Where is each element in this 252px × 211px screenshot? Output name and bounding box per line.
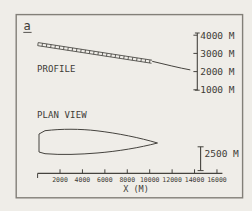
profile-scale-tick-label: 3000 M [200, 48, 235, 59]
x-axis-tick-label: 12000 [162, 176, 182, 184]
profile-extension-line [152, 61, 190, 70]
x-axis-ticks: 200040006000800010000120001400016000 [52, 169, 227, 184]
plan-view-outline [39, 129, 158, 154]
x-axis-tick-label: 16000 [207, 176, 227, 184]
profile-label: PROFILE [37, 64, 76, 74]
x-axis-tick-label: 4000 [75, 176, 91, 184]
x-axis-tick-label: 14000 [185, 176, 205, 184]
x-axis-tick-label: 6000 [97, 176, 113, 184]
x-axis: 200040006000800010000120001400016000 X (… [38, 169, 227, 194]
x-axis-tick-label: 2000 [52, 176, 68, 184]
figure-border [16, 15, 242, 198]
figure-canvas: a PROFILE 4000 M3000 M2000 M1000 M PLAN … [0, 0, 252, 211]
x-axis-tick-label: 8000 [119, 176, 135, 184]
plan-scale-bar: 2500 M [198, 147, 239, 171]
profile-scale-tick-label: 2000 M [200, 66, 235, 77]
profile-elevation-scale: 4000 M3000 M2000 M1000 M [193, 30, 234, 96]
plan-view-label: PLAN VIEW [37, 110, 87, 120]
profile-hatched-line [38, 43, 152, 64]
x-axis-title: X (M) [123, 184, 149, 194]
profile-scale-tick-label: 4000 M [200, 30, 235, 41]
scanned-figure-page: a PROFILE 4000 M3000 M2000 M1000 M PLAN … [0, 0, 252, 211]
profile-scale-tick-label: 1000 M [200, 84, 235, 95]
x-axis-tick-label: 10000 [140, 176, 160, 184]
panel-label: a [24, 19, 31, 33]
plan-scale-label: 2500 M [205, 148, 240, 159]
